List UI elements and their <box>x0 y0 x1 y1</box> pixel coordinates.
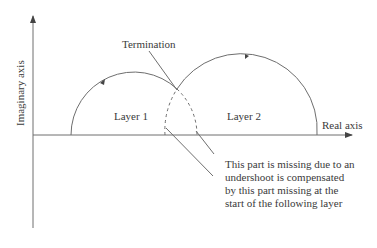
layer-2-arc-solid <box>177 54 317 135</box>
note-line: undershoot is compensated <box>225 171 345 183</box>
layer-2-direction-arrow-icon <box>245 54 249 59</box>
real-axis-label: Real axis <box>322 119 363 131</box>
undershoot-leader-line-2 <box>196 131 214 154</box>
layer-2-label: Layer 2 <box>227 110 261 122</box>
termination-label: Termination <box>122 38 176 50</box>
note-line: start of the following layer <box>225 197 343 209</box>
note-line: This part is missing due to an <box>225 158 355 170</box>
diagram-canvas: Termination Layer 1 Layer 2 Real axis Im… <box>0 0 377 248</box>
layer-1-arc-dashed <box>177 89 197 135</box>
layer-1-arc-solid <box>71 72 177 135</box>
note-line: by this part missing at the <box>225 184 338 196</box>
undershoot-note: This part is missing due to an undershoo… <box>225 158 355 209</box>
imaginary-axis-label: Imaginary axis <box>14 60 26 126</box>
termination-leader-line <box>149 51 177 90</box>
layer-1-label: Layer 1 <box>114 110 148 122</box>
